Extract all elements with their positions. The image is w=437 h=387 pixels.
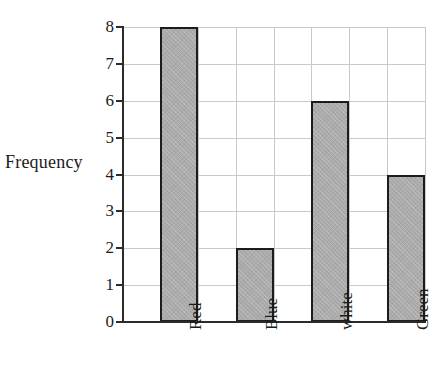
- gridline-vertical: [198, 27, 199, 322]
- y-tick-label: 1: [92, 276, 114, 293]
- y-tick-mark: [116, 321, 123, 323]
- plot-area: [122, 27, 425, 322]
- gridline-vertical: [274, 27, 275, 322]
- y-tick-label: 5: [92, 129, 114, 146]
- y-tick-mark: [116, 247, 123, 249]
- y-axis-tick-labels: 012345678: [88, 0, 114, 387]
- y-tick-label: 0: [92, 313, 114, 330]
- x-category-label-green: Green: [414, 288, 431, 330]
- y-tick-mark: [116, 100, 123, 102]
- y-tick-label: 8: [92, 18, 114, 35]
- y-tick-mark: [116, 174, 123, 176]
- y-tick-mark: [116, 284, 123, 286]
- y-tick-mark: [116, 210, 123, 212]
- y-tick-mark: [116, 137, 123, 139]
- y-tick-label: 4: [92, 166, 114, 183]
- y-tick-mark: [116, 26, 123, 28]
- gridline-vertical: [425, 27, 426, 322]
- x-category-label-red: Red: [187, 303, 204, 330]
- gridline-vertical: [349, 27, 350, 322]
- bar-red: [160, 27, 198, 322]
- y-tick-mark: [116, 63, 123, 65]
- bar-chart-figure: Frequency 012345678 RedBluewhiteGreen: [0, 0, 437, 387]
- y-tick-label: 6: [92, 92, 114, 109]
- y-tick-label: 2: [92, 239, 114, 256]
- x-category-label-white: white: [338, 292, 355, 330]
- x-category-label-blue: Blue: [263, 298, 280, 330]
- y-tick-label: 7: [92, 55, 114, 72]
- y-tick-label: 3: [92, 202, 114, 219]
- bar-white: [311, 101, 349, 322]
